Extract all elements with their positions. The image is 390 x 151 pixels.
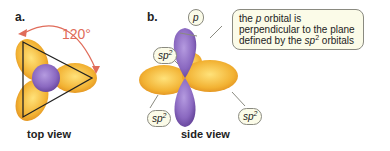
panel-a-label: a. (15, 10, 25, 24)
top-view-caption: top view (27, 128, 71, 140)
side-view-caption: side view (181, 128, 230, 140)
p-orbital-label: p (188, 9, 204, 26)
panel-b-label: b. (147, 10, 158, 24)
sp2-label-top: sp2 (153, 47, 177, 64)
sp2-label-left: sp2 (147, 110, 171, 127)
angle-label: 120° (62, 26, 91, 42)
sp2-label-right: sp2 (238, 108, 262, 125)
perpendicular-note: the p orbital is perpendicular to the pl… (232, 9, 364, 50)
